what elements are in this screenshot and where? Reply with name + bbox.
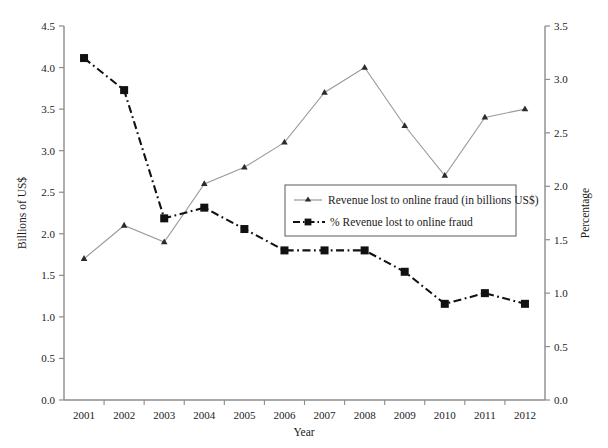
left-tick-label: 2.0	[41, 228, 55, 240]
y-axis-title: Billions of US$	[16, 177, 28, 249]
y2-axis-title: Percentage	[579, 188, 592, 238]
series-layer	[80, 54, 529, 308]
data-point-square	[361, 246, 369, 254]
chart-legend: Revenue lost to online fraud (in billion…	[285, 185, 539, 236]
left-tick-label: 3.5	[41, 103, 55, 115]
data-point-square	[521, 300, 529, 308]
x-tick-label-2012: 2012	[514, 409, 536, 421]
left-tick-label: 1.5	[41, 269, 55, 281]
data-point-square	[321, 246, 329, 254]
data-point-triangle	[361, 64, 368, 70]
data-point-triangle	[522, 106, 529, 112]
square-marker-icon	[305, 219, 312, 226]
series-percent	[80, 54, 529, 308]
x-tick-label-2009: 2009	[394, 409, 417, 421]
series-line	[84, 58, 525, 304]
right-tick-label: 1.5	[554, 234, 568, 246]
data-point-triangle	[121, 222, 128, 228]
left-tick-label: 2.5	[41, 186, 55, 198]
right-tick-label: 2.0	[554, 180, 568, 192]
data-point-square	[481, 289, 489, 297]
left-tick-label: 3.0	[41, 145, 55, 157]
right-tick-label: 0.0	[554, 394, 568, 406]
x-axis-title: Year	[293, 426, 314, 438]
x-tick-label-2002: 2002	[113, 409, 135, 421]
data-point-triangle	[81, 255, 88, 261]
data-point-square	[441, 300, 449, 308]
data-point-square	[401, 268, 409, 276]
x-tick-label-2007: 2007	[314, 409, 337, 421]
right-tick-label: 2.5	[554, 127, 568, 139]
legend-box	[285, 185, 516, 236]
left-tick-label: 0.5	[41, 352, 55, 364]
x-tick-label-2001: 2001	[73, 409, 95, 421]
x-tick-label-2010: 2010	[434, 409, 457, 421]
x-tick-label-2004: 2004	[193, 409, 216, 421]
x-tick-label-2011: 2011	[474, 409, 496, 421]
data-point-square	[240, 225, 248, 233]
data-point-square	[280, 246, 288, 254]
x-tick-label-2003: 2003	[153, 409, 176, 421]
left-tick-label: 0.0	[41, 394, 55, 406]
right-tick-label: 3.5	[554, 20, 568, 32]
data-point-triangle	[241, 164, 248, 170]
data-point-square	[80, 54, 88, 62]
data-point-square	[200, 204, 208, 212]
data-point-triangle	[321, 89, 328, 95]
data-point-square	[120, 86, 128, 94]
left-tick-label: 4.5	[41, 20, 55, 32]
left-tick-label: 1.0	[41, 311, 55, 323]
left-tick-label: 4.0	[41, 62, 55, 74]
x-tick-label-2006: 2006	[273, 409, 296, 421]
right-tick-label: 3.0	[554, 73, 568, 85]
right-axis-ticks: 0.00.51.01.52.02.53.03.5	[545, 20, 568, 406]
x-axis-ticks: 2001200220032004200520062007200820092010…	[73, 400, 536, 421]
legend-label-percent: % Revenue lost to online fraud	[330, 216, 473, 228]
fraud-revenue-chart: 0.00.51.01.52.02.53.03.54.04.5 0.00.51.0…	[0, 0, 608, 448]
right-tick-label: 1.0	[554, 287, 568, 299]
data-point-square	[160, 214, 168, 222]
legend-label-revenue: Revenue lost to online fraud (in billion…	[328, 194, 539, 207]
left-axis-ticks: 0.00.51.01.52.02.53.03.54.04.5	[41, 20, 64, 406]
x-tick-label-2008: 2008	[354, 409, 377, 421]
legend-item-revenue: Revenue lost to online fraud (in billion…	[294, 194, 539, 207]
right-tick-label: 0.5	[554, 341, 568, 353]
chart-canvas: 0.00.51.01.52.02.53.03.54.04.5 0.00.51.0…	[0, 0, 608, 448]
x-tick-label-2005: 2005	[233, 409, 256, 421]
